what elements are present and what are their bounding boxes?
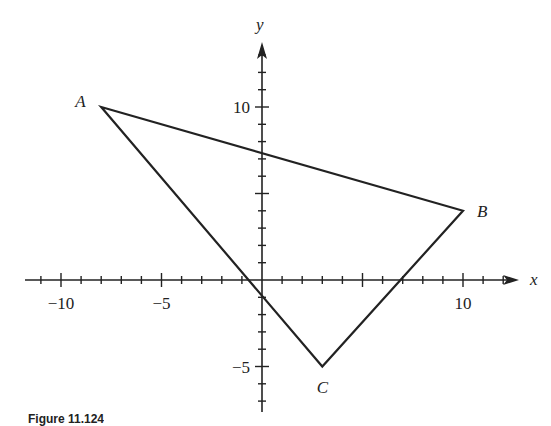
x-axis-label: x <box>529 270 538 289</box>
x-tick-label: −5 <box>152 294 170 313</box>
figure-caption: Figure 11.124 <box>28 412 104 426</box>
vertex-label-b: B <box>477 202 488 221</box>
y-tick-label: −5 <box>232 358 250 377</box>
vertex-label-c: C <box>317 378 329 397</box>
vertex-label-a: A <box>74 92 86 111</box>
axis-tick-labels: −10−51010−5 <box>48 98 472 377</box>
triangle-diagram: −10−51010−5 ABC x y <box>0 0 551 426</box>
y-tick-label: 10 <box>233 98 250 117</box>
coordinate-axes <box>25 42 519 412</box>
axis-ticks <box>41 55 503 401</box>
triangle-abc <box>101 107 463 367</box>
x-tick-label: −10 <box>48 294 75 313</box>
vertex-labels: ABC <box>74 92 488 397</box>
y-axis-label: y <box>254 15 264 34</box>
x-tick-label: 10 <box>455 294 472 313</box>
triangle-outline <box>101 107 463 367</box>
